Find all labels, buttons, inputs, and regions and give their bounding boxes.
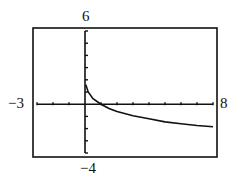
graph-window: 6 −3 8 −4 <box>0 0 237 178</box>
plot-area <box>0 0 237 178</box>
xmax-label: 8 <box>220 95 228 112</box>
xmin-label: −3 <box>8 95 24 112</box>
window-frame <box>33 28 217 157</box>
ymax-label: 6 <box>82 8 90 25</box>
function-curve <box>86 85 213 127</box>
ymin-label: −4 <box>80 160 96 177</box>
